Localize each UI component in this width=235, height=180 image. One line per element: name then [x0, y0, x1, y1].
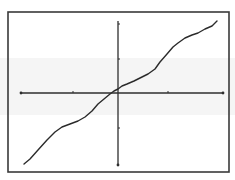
x-axis-end-marker — [222, 92, 225, 95]
chart-canvas — [0, 0, 235, 180]
x-axis-end-marker — [20, 92, 23, 95]
axes — [20, 21, 225, 166]
y-axis-end-marker — [117, 164, 120, 167]
graph-plot — [0, 0, 235, 180]
